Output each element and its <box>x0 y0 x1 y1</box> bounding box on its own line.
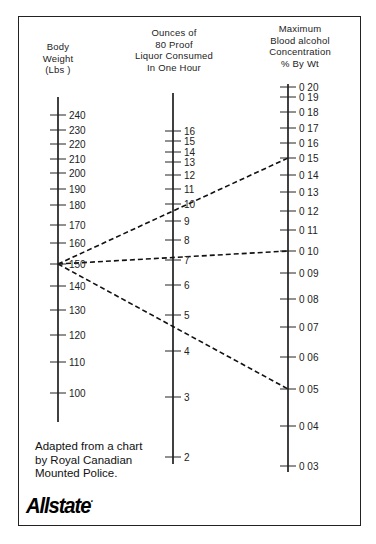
tick-label: 0 05 <box>299 384 319 395</box>
tick-label: 0 12 <box>299 206 319 217</box>
tick-label: 0 13 <box>299 187 319 198</box>
tick-label: 8 <box>184 235 190 246</box>
tick-label: 12 <box>184 170 196 181</box>
tick-label: 15 <box>184 136 196 147</box>
tick-label: 120 <box>69 330 86 341</box>
tick-label: 9 <box>184 216 190 227</box>
tick-label: 0 18 <box>299 107 319 118</box>
credit-line: Mounted Police. <box>35 467 142 481</box>
tick-label: 100 <box>69 388 86 399</box>
logo-text: Allstate <box>26 493 90 518</box>
tick-label: 0 06 <box>299 352 319 363</box>
tick-label: 0 15 <box>299 153 319 164</box>
credit-line: Adapted from a chart <box>35 440 142 454</box>
tick-label: 230 <box>69 125 86 136</box>
tick-label: 160 <box>69 238 86 249</box>
tick-label: 5 <box>184 310 190 321</box>
tick-label: 7 <box>184 255 190 266</box>
tick-label: 10 <box>184 199 196 210</box>
tick-label: 180 <box>69 200 86 211</box>
tick-label: 13 <box>184 157 196 168</box>
tick-label: 130 <box>69 305 86 316</box>
tick-label: 0 17 <box>299 123 319 134</box>
tick-label: 190 <box>69 184 86 195</box>
tick-label: 0 03 <box>299 461 319 472</box>
tick-label: 110 <box>69 357 85 368</box>
tick-label: 0 08 <box>299 294 319 305</box>
tick-label: 240 <box>69 110 86 121</box>
tick-label: 220 <box>69 139 86 150</box>
tick-label: 11 <box>184 184 195 195</box>
tick-label: 200 <box>69 168 86 179</box>
tick-label: 150 <box>69 259 86 270</box>
tick-label: 0 11 <box>299 225 318 236</box>
tick-label: 0 19 <box>299 92 319 103</box>
tick-label: 0 04 <box>299 421 319 432</box>
credit-text: Adapted from a chart by Royal Canadian M… <box>35 440 142 481</box>
tick-label: 0 09 <box>299 268 319 279</box>
tick-label: 3 <box>184 392 190 403</box>
tick-label: 0 14 <box>299 170 319 181</box>
tick-label: 170 <box>69 220 86 231</box>
tick-label: 0 10 <box>299 246 319 257</box>
tick-label: 4 <box>184 346 190 357</box>
tick-label: 6 <box>184 280 190 291</box>
tick-label: 0 16 <box>299 138 319 149</box>
tick-label: 140 <box>69 281 86 292</box>
credit-line: by Royal Canadian <box>35 454 142 468</box>
tick-label: 210 <box>69 154 86 165</box>
tick-label: 2 <box>184 452 190 463</box>
logo-dot: · <box>90 496 93 507</box>
allstate-logo: Allstate· <box>26 493 93 519</box>
tick-label: 0 07 <box>299 322 319 333</box>
